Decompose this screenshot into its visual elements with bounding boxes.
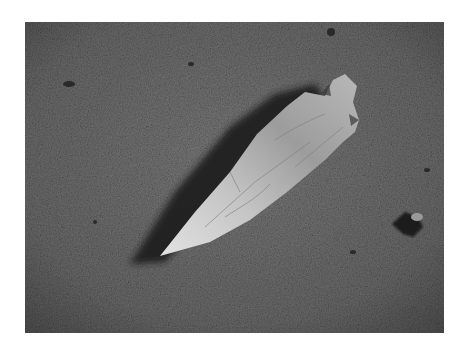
arrowhead-photo	[25, 22, 444, 333]
photo-canvas	[25, 22, 444, 333]
